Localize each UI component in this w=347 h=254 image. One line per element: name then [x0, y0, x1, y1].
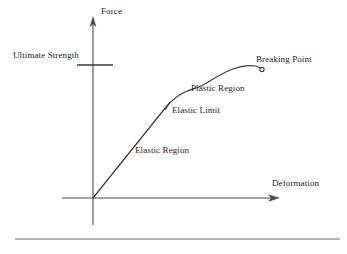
elastic-limit-label: Elastic Limit	[172, 105, 220, 115]
x-axis-label: Deformation	[272, 178, 319, 188]
ultimate-strength-label: Ultimate Strength	[13, 50, 79, 60]
elastic-limit-marker	[165, 102, 170, 110]
plastic-region-label: Plastic Region	[191, 83, 245, 93]
y-axis-label: Force	[101, 6, 122, 16]
breaking-point-dot	[260, 67, 264, 71]
figure-canvas	[0, 0, 347, 254]
elastic-region-label: Elastic Region	[135, 145, 189, 155]
breaking-point-label: Breaking Point	[256, 54, 312, 64]
stress-strain-figure: Ultimate Strength Force Breaking Point P…	[0, 0, 347, 254]
